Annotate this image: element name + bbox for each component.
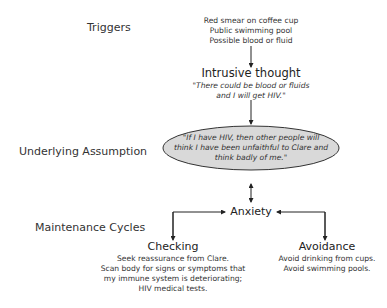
- anxiety-label: Anxiety: [221, 205, 281, 218]
- trigger-item: Possible blood or fluid: [171, 36, 331, 46]
- assumption-line: think I have been unfaithful to Clare an…: [171, 143, 331, 153]
- checking-line: my immune system is deteriorating;: [98, 274, 248, 284]
- triggers-list: Red smear on coffee cup Public swimming …: [171, 16, 331, 46]
- triggers-label: Triggers: [87, 21, 131, 34]
- quote-line: "There could be blood or fluids: [171, 81, 331, 91]
- intrusive-thought-quote: "There could be blood or fluids and I wi…: [171, 81, 331, 101]
- checking-line: HIV medical tests.: [98, 284, 248, 294]
- assumption-text: "If I have HIV, then other people will t…: [171, 133, 331, 163]
- avoidance-line: Avoid swimming pools.: [267, 264, 387, 274]
- trigger-item: Red smear on coffee cup: [171, 16, 331, 26]
- maintenance-label: Maintenance Cycles: [35, 221, 145, 234]
- assumption-line: think badly of me.": [171, 153, 331, 163]
- checking-line: Seek reassurance from Clare.: [98, 254, 248, 264]
- avoidance-title: Avoidance: [277, 240, 377, 253]
- checking-line: Scan body for signs or symptoms that: [98, 264, 248, 274]
- avoidance-line: Avoid drinking from cups.: [267, 254, 387, 264]
- trigger-item: Public swimming pool: [171, 26, 331, 36]
- quote-line: and I will get HIV.": [171, 91, 331, 101]
- checking-list: Seek reassurance from Clare. Scan body f…: [98, 254, 248, 294]
- assumption-line: "If I have HIV, then other people will: [171, 133, 331, 143]
- checking-title: Checking: [123, 240, 223, 253]
- intrusive-thought-title: Intrusive thought: [171, 66, 331, 80]
- avoidance-list: Avoid drinking from cups. Avoid swimming…: [267, 254, 387, 274]
- assumption-label: Underlying Assumption: [19, 145, 147, 158]
